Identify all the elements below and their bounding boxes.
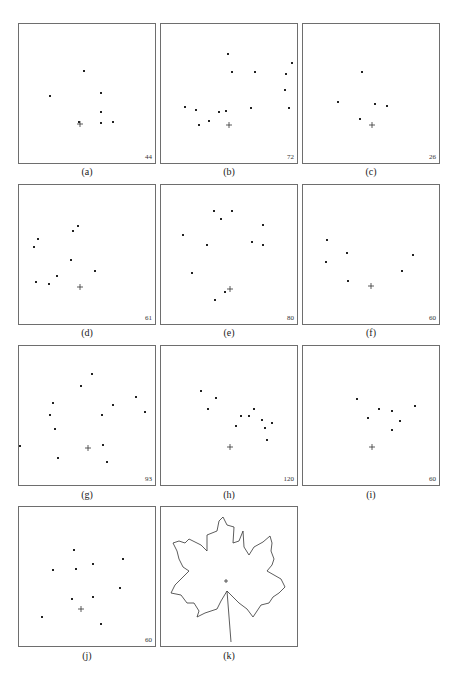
point-count: 60: [145, 636, 152, 644]
data-point: [52, 402, 54, 404]
data-point: [106, 461, 108, 463]
point-count: 60: [429, 475, 436, 483]
data-point: [77, 225, 79, 227]
point-count: 26: [429, 153, 436, 161]
point-plot: [303, 24, 439, 163]
panel-caption-c: (c): [302, 166, 440, 177]
data-point: [135, 396, 137, 398]
data-point: [73, 549, 75, 551]
panel-caption-h: (h): [160, 489, 298, 500]
data-point: [112, 121, 114, 123]
data-point: [52, 569, 54, 571]
data-point: [19, 445, 21, 447]
data-point: [414, 405, 416, 407]
data-point: [399, 420, 401, 422]
data-point: [94, 270, 96, 272]
data-point: [144, 411, 146, 413]
data-point: [112, 404, 114, 406]
data-point: [184, 106, 186, 108]
data-point: [119, 587, 121, 589]
data-point: [213, 210, 215, 212]
data-point: [262, 244, 264, 246]
centroid-plus-icon: [369, 444, 375, 450]
data-point: [235, 425, 237, 427]
point-plot: [19, 507, 155, 646]
panel-caption-a: (a): [18, 166, 156, 177]
data-point: [101, 414, 103, 416]
data-point: [264, 427, 266, 429]
data-point: [37, 238, 39, 240]
data-point: [224, 291, 226, 293]
centroid-plus-icon: [368, 283, 374, 289]
maple-leaf-icon: [161, 507, 297, 646]
data-point: [92, 596, 94, 598]
data-point: [83, 70, 85, 72]
data-point: [261, 419, 263, 421]
data-point: [75, 568, 77, 570]
data-point: [266, 439, 268, 441]
scatter-panel-h: 120: [160, 345, 298, 486]
centroid-plus-icon: [78, 606, 84, 612]
point-plot: [19, 346, 155, 485]
centroid-plus-icon: [227, 444, 233, 450]
data-point: [70, 259, 72, 261]
scatter-panel-c: 26: [302, 23, 440, 164]
data-point: [80, 385, 82, 387]
data-point: [231, 71, 233, 73]
data-point: [102, 444, 104, 446]
centroid-plus-icon: [224, 579, 228, 583]
data-point: [214, 299, 216, 301]
point-plot: [303, 185, 439, 324]
panel-caption-b: (b): [160, 166, 298, 177]
data-point: [92, 563, 94, 565]
scatter-panel-d: 61: [18, 184, 156, 325]
data-point: [326, 239, 328, 241]
centroid-plus-icon: [77, 121, 83, 127]
point-count: 93: [145, 475, 152, 483]
data-point: [122, 558, 124, 560]
data-point: [325, 261, 327, 263]
scatter-panel-a: 44: [18, 23, 156, 164]
data-point: [391, 410, 393, 412]
data-point: [251, 241, 253, 243]
scatter-panel-j: 60: [18, 506, 156, 647]
panel-caption-j: (j): [18, 650, 156, 661]
data-point: [240, 415, 242, 417]
data-point: [35, 281, 37, 283]
panel-caption-i: (i): [302, 489, 440, 500]
data-point: [225, 110, 227, 112]
data-point: [198, 124, 200, 126]
point-count: 44: [145, 153, 152, 161]
data-point: [386, 105, 388, 107]
data-point: [71, 598, 73, 600]
data-point: [231, 210, 233, 212]
data-point: [218, 111, 220, 113]
data-point: [346, 252, 348, 254]
data-point: [262, 224, 264, 226]
point-count: 72: [287, 153, 294, 161]
data-point: [367, 417, 369, 419]
data-point: [220, 218, 222, 220]
scatter-panel-b: 72: [160, 23, 298, 164]
point-plot: [161, 24, 297, 163]
data-point: [56, 275, 58, 277]
data-point: [49, 95, 51, 97]
point-plot: [19, 185, 155, 324]
data-point: [100, 92, 102, 94]
data-point: [41, 616, 43, 618]
data-point: [195, 109, 197, 111]
data-point: [191, 272, 193, 274]
data-point: [215, 397, 217, 399]
leaf-outline-panel-k: [160, 506, 298, 647]
centroid-plus-icon: [227, 286, 233, 292]
data-point: [72, 230, 74, 232]
data-point: [284, 89, 286, 91]
data-point: [337, 101, 339, 103]
data-point: [248, 415, 250, 417]
panel-caption-f: (f): [302, 327, 440, 338]
data-point: [100, 122, 102, 124]
scatter-panel-g: 93: [18, 345, 156, 486]
data-point: [374, 103, 376, 105]
point-count: 60: [429, 314, 436, 322]
centroid-plus-icon: [369, 122, 375, 128]
